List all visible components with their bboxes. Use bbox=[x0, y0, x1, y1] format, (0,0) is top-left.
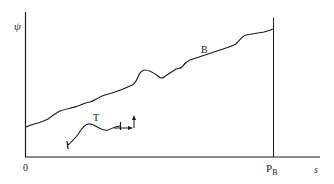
pb-label: PB bbox=[266, 162, 277, 177]
curve-b-label: B bbox=[201, 44, 208, 55]
x-axis-label: s bbox=[314, 164, 318, 175]
y-axis-label: ψ bbox=[14, 20, 21, 32]
horizontal-arrow-icon bbox=[128, 126, 133, 130]
origin-label: 0 bbox=[23, 162, 28, 173]
trajectory-t-label: T bbox=[93, 112, 99, 123]
pb-label-sub: B bbox=[272, 168, 277, 177]
vertical-arrow-icon bbox=[132, 115, 136, 120]
diagram-figure: ψ s 0 PB B T bbox=[0, 0, 334, 184]
curve-b bbox=[26, 29, 273, 127]
trajectory-t bbox=[68, 124, 120, 145]
trajectory-start-tick bbox=[67, 141, 68, 149]
